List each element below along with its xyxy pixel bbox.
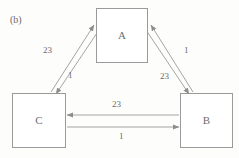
node-box-c[interactable]: C	[12, 93, 66, 148]
edge-a-to-c	[56, 30, 99, 94]
edge-weight-a-to-b: 23	[160, 72, 169, 81]
edge-c-to-a	[51, 25, 94, 92]
figure-panel: (b) A C B 23 1 1 23 23 1	[0, 0, 239, 158]
node-label-c: C	[35, 115, 42, 126]
edge-weight-b-to-c: 23	[112, 100, 121, 109]
node-box-a[interactable]: A	[96, 8, 148, 63]
node-box-b[interactable]: B	[180, 93, 233, 148]
edge-b-to-a	[151, 25, 193, 92]
edge-weight-a-to-c: 1	[68, 71, 73, 80]
node-label-a: A	[118, 30, 126, 41]
edge-weight-c-to-b: 1	[119, 132, 124, 141]
node-label-b: B	[203, 115, 210, 126]
edge-weight-c-to-a: 23	[43, 46, 52, 55]
edge-weight-b-to-a: 1	[184, 46, 189, 55]
edge-a-to-b	[146, 30, 189, 94]
